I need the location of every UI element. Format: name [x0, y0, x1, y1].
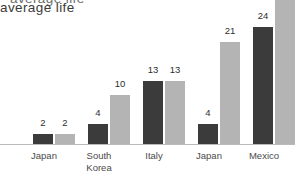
category-label-italy: Italy: [132, 150, 176, 162]
category-label-japan: Japan: [22, 150, 66, 162]
value-label-mexico-dark: 24: [253, 11, 273, 21]
bar-japan-light: [55, 134, 75, 144]
bar-south-korea-dark: [88, 124, 108, 144]
bar-italy-light: [165, 81, 185, 144]
category-label-mexico: Mexico: [242, 150, 286, 162]
bar-chart: 224101313421247 average life average lif…: [0, 0, 295, 176]
bar-south-korea-light: [110, 95, 130, 144]
value-label-japan-light: 2: [55, 118, 75, 128]
value-label-japan-2-dark: 4: [198, 108, 218, 118]
bar-italy-dark: [143, 81, 163, 144]
value-label-japan-2-light: 21: [220, 26, 240, 36]
value-label-japan-dark: 2: [33, 118, 53, 128]
value-label-south-korea-light: 10: [110, 79, 130, 89]
plot-area: 224101313421247: [0, 0, 295, 145]
bar-japan-2-light: [220, 42, 240, 144]
value-label-south-korea-dark: 4: [88, 108, 108, 118]
category-label-south-korea: South Korea: [77, 150, 121, 173]
x-axis-line: [0, 144, 295, 145]
bar-mexico-light: [275, 0, 295, 144]
x-axis-category-labels: JapanSouth KoreaItalyJapanMexicoSouth Af…: [0, 150, 295, 176]
value-label-italy-light: 13: [165, 65, 185, 75]
bar-mexico-dark: [253, 27, 273, 144]
bar-japan-dark: [33, 134, 53, 144]
bar-japan-2-dark: [198, 124, 218, 144]
value-label-italy-dark: 13: [143, 65, 163, 75]
category-label-japan-2: Japan: [187, 150, 231, 162]
page-title: average life: [0, 0, 75, 15]
